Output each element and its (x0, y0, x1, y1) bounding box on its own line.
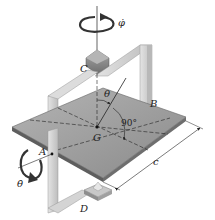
label-dimension-c: c (153, 157, 159, 167)
diagram-graphic (0, 0, 215, 220)
label-point-g: G (93, 133, 101, 143)
label-point-b: B (150, 99, 157, 109)
label-right-angle: 90° (121, 119, 137, 128)
point-g-marker (95, 125, 98, 128)
frame-left-post-lower (48, 128, 58, 213)
label-point-c: C (80, 64, 88, 74)
label-theta-dot: θ̇ (17, 179, 23, 189)
label-phi-dot: φ̇ (118, 18, 125, 28)
label-point-a: A (39, 147, 46, 157)
diagram: φ̇ C θ B 90° G A θ̇ c D (0, 0, 215, 220)
label-point-d: D (80, 204, 88, 214)
label-theta: θ (104, 89, 110, 99)
bearing-d (84, 182, 112, 201)
